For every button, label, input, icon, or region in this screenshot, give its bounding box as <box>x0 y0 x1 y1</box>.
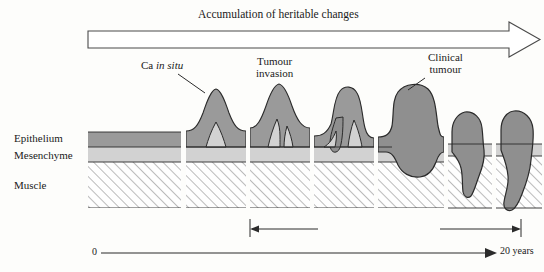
metastasis-range-bracket <box>250 219 521 237</box>
muscle-layer <box>88 162 181 208</box>
mesenchyme-layer <box>250 147 310 162</box>
leader-line-ca-in-situ <box>178 74 205 93</box>
panel-carcinoma-in-situ <box>186 89 246 208</box>
epithelium-layer <box>88 132 181 147</box>
muscle-layer <box>314 162 374 208</box>
timeline-arrow <box>101 248 497 258</box>
panel-normal-epithelium <box>88 132 181 208</box>
figure-root: Epithelium Mesenchyme Muscle Accumulatio… <box>0 0 544 272</box>
mesenchyme-layer <box>88 147 181 162</box>
mesenchyme-layer <box>186 147 246 162</box>
panel-muscle-invasion <box>448 112 492 208</box>
epithelium-layer <box>314 87 374 147</box>
panel-clinical-tumour <box>378 84 444 208</box>
muscle-layer <box>186 162 246 208</box>
muscle-layer <box>250 162 310 208</box>
panel-deep-muscle-breach <box>496 111 542 211</box>
mesenchyme-layer <box>314 147 374 162</box>
panel-early-invasion <box>250 84 310 208</box>
panel-tumour-invasion <box>314 87 374 208</box>
accumulation-block-arrow <box>88 22 540 57</box>
diagram-canvas <box>0 0 544 272</box>
